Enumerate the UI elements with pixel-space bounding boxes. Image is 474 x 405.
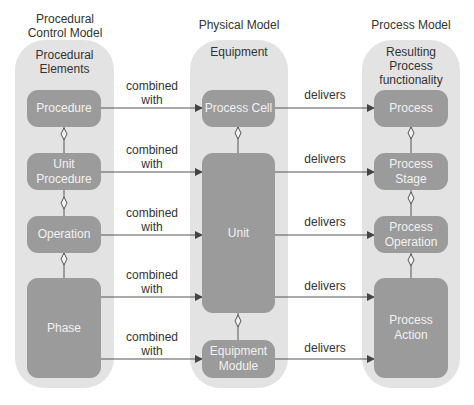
combined-with-label: combinedwith — [107, 268, 197, 296]
delivers-label: delivers — [280, 215, 370, 229]
box-label: Process — [389, 157, 432, 172]
label-line: with — [107, 344, 197, 358]
box-label: Action — [389, 328, 432, 343]
box-label: Procedure — [36, 172, 91, 187]
box-label: Module — [210, 359, 267, 374]
box-label: Process — [389, 313, 432, 328]
phase-box[interactable]: Phase — [27, 278, 101, 378]
box-label: Process Cell — [205, 101, 272, 116]
process-cell-box[interactable]: Process Cell — [202, 90, 275, 127]
box-label: Unit — [36, 157, 91, 172]
process-box[interactable]: Process — [374, 90, 448, 127]
box-label: Equipment — [210, 344, 267, 359]
equipment-module-box[interactable]: EquipmentModule — [202, 340, 275, 378]
box-label: Phase — [47, 321, 81, 336]
combined-with-label: combinedwith — [107, 79, 197, 107]
box-label: Unit — [228, 226, 249, 241]
box-label: Stage — [389, 172, 432, 187]
label-line: with — [107, 282, 197, 296]
process-stage-box[interactable]: ProcessStage — [374, 153, 448, 190]
procedure-box[interactable]: Procedure — [27, 90, 101, 127]
process-operation-box[interactable]: ProcessOperation — [374, 216, 448, 253]
delivers-label: delivers — [280, 341, 370, 355]
box-label: Operation — [38, 227, 91, 242]
operation-box[interactable]: Operation — [27, 216, 101, 253]
label-line: with — [107, 157, 197, 171]
aggregation-left — [61, 127, 67, 278]
label-line: combined — [107, 268, 197, 282]
combined-with-label: combinedwith — [107, 206, 197, 234]
box-label: Procedure — [36, 101, 91, 116]
box-label: Operation — [385, 235, 438, 250]
label-line: combined — [107, 206, 197, 220]
box-label: Process — [385, 220, 438, 235]
label-line: combined — [107, 79, 197, 93]
delivers-label: delivers — [280, 152, 370, 166]
delivers-label: delivers — [280, 279, 370, 293]
unit-procedure-box[interactable]: UnitProcedure — [27, 153, 101, 190]
label-line: with — [107, 220, 197, 234]
delivers-label: delivers — [280, 88, 370, 102]
label-line: with — [107, 93, 197, 107]
aggregation-right — [408, 127, 414, 278]
process-action-box[interactable]: ProcessAction — [374, 278, 448, 378]
unit-box[interactable]: Unit — [202, 153, 275, 313]
combined-with-label: combinedwith — [107, 330, 197, 358]
combined-with-label: combinedwith — [107, 143, 197, 171]
box-label: Process — [389, 101, 432, 116]
label-line: combined — [107, 143, 197, 157]
label-line: combined — [107, 330, 197, 344]
